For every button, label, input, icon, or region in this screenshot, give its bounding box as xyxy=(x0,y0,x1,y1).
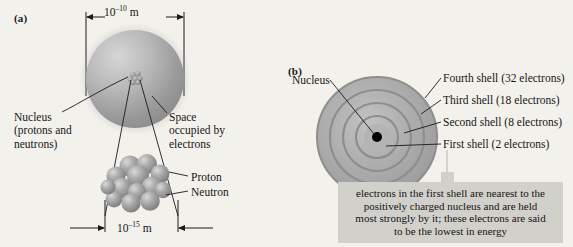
atom-dimension-label: 10–10 m xyxy=(104,6,139,19)
callout-line-1: electrons in the first shell are nearest… xyxy=(342,187,559,200)
atomic-structure-figure: (a) (b) 10–10 m 10–15 m Nucleus (protons… xyxy=(0,0,573,247)
callout-box: electrons in the first shell are nearest… xyxy=(338,182,563,243)
nucleus-dimension-label: 10–15 m xyxy=(117,222,152,235)
label-shell-first: First shell (2 electrons) xyxy=(443,138,549,151)
label-proton: Proton xyxy=(191,171,222,184)
label-shell-third: Third shell (18 electrons) xyxy=(443,94,560,107)
nucleus-dimension-unit: m xyxy=(140,222,152,234)
callout-line-2: positively charged nucleus and are held xyxy=(342,200,559,213)
atom-dimension-exponent: –10 xyxy=(116,4,127,13)
callout-line-4: to be the lowest in energy xyxy=(342,225,559,238)
nucleus-dimension-exponent: –15 xyxy=(129,220,140,229)
label-nucleus-protons-neutrons: Nucleus (protons and neutrons) xyxy=(14,111,72,151)
nucleus-dimension-base: 10 xyxy=(117,222,129,234)
callout-line-3: most strongly by it; these electrons are… xyxy=(342,212,559,225)
panel-a-letter: (a) xyxy=(14,12,27,24)
label-space-occupied-by-electrons: Space occupied by electrons xyxy=(169,111,225,151)
label-shell-second: Second shell (8 electrons) xyxy=(443,116,562,129)
leader-line-shell-4 xyxy=(425,78,441,98)
label-neutron: Neutron xyxy=(191,186,229,199)
atom-dimension-base: 10 xyxy=(104,6,116,18)
nucleon-cluster xyxy=(100,154,171,213)
leader-line-proton xyxy=(169,172,188,176)
atom-dimension-unit: m xyxy=(127,6,139,18)
shell-diagram-group xyxy=(317,77,447,197)
label-shell-fourth: Fourth shell (32 electrons) xyxy=(443,72,565,85)
label-nucleus-b: Nucleus xyxy=(292,74,330,87)
